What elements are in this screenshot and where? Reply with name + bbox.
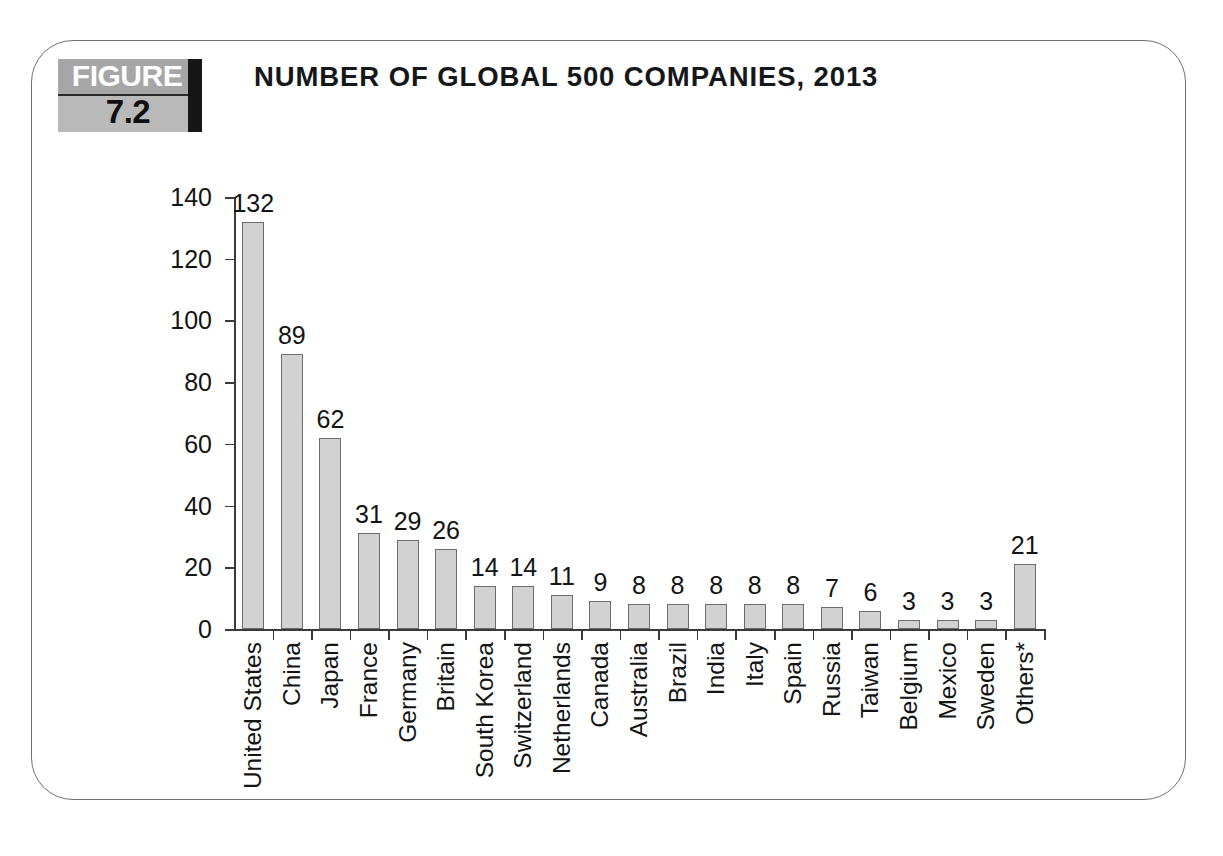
bar-item[interactable]: 14South Korea xyxy=(465,197,504,629)
bar-value-label: 14 xyxy=(471,555,499,580)
x-axis-category-label: Mexico xyxy=(935,642,960,720)
bar-series: 132United States89China62Japan31France29… xyxy=(234,197,1044,629)
x-axis-tick xyxy=(658,630,660,640)
x-axis-tick xyxy=(1005,630,1007,640)
y-axis-tick: 0 xyxy=(225,629,234,631)
bar-value-label: 3 xyxy=(902,589,916,614)
bar-item[interactable]: 3Sweden xyxy=(967,197,1006,629)
bar-item[interactable]: 8Brazil xyxy=(658,197,697,629)
y-axis-tick-label: 80 xyxy=(184,368,212,397)
bar-rect[interactable] xyxy=(319,438,341,629)
bar-rect[interactable] xyxy=(474,586,496,629)
bar-value-label: 6 xyxy=(863,580,877,605)
bar-item[interactable]: 7Russia xyxy=(813,197,852,629)
bar-item[interactable]: 9Canada xyxy=(581,197,620,629)
bar-value-label: 11 xyxy=(549,564,575,589)
y-axis-tick: 20 xyxy=(225,567,234,569)
bar-item[interactable]: 62Japan xyxy=(311,197,350,629)
bar-rect[interactable] xyxy=(397,540,419,629)
x-axis-tick xyxy=(967,630,969,640)
bar-value-label: 8 xyxy=(632,573,646,598)
bar-value-label: 31 xyxy=(355,502,383,527)
y-axis-tick: 120 xyxy=(225,259,234,261)
x-axis-tick xyxy=(928,630,930,640)
bar-item[interactable]: 21Others* xyxy=(1005,197,1044,629)
bar-item[interactable]: 8India xyxy=(697,197,736,629)
bar-chart: 020406080100120140 132United States89Chi… xyxy=(32,41,1187,801)
bar-rect[interactable] xyxy=(358,533,380,629)
bar-item[interactable]: 3Mexico xyxy=(928,197,967,629)
bar-rect[interactable] xyxy=(705,604,727,629)
x-axis-tick xyxy=(427,630,429,640)
y-axis-tick-label: 120 xyxy=(170,244,212,273)
x-axis-category-label: South Korea xyxy=(472,642,497,778)
bar-value-label: 3 xyxy=(979,589,993,614)
x-axis-category-label: Others* xyxy=(1012,642,1037,725)
bar-item[interactable]: 11Netherlands xyxy=(543,197,582,629)
y-axis-tick: 80 xyxy=(225,382,234,384)
x-axis-tick xyxy=(851,630,853,640)
x-axis-category-label: Japan xyxy=(318,642,343,709)
bar-item[interactable]: 8Australia xyxy=(620,197,659,629)
bar-value-label: 14 xyxy=(509,555,537,580)
bar-item[interactable]: 132United States xyxy=(234,197,273,629)
x-axis-category-label: Switzerland xyxy=(511,642,536,769)
bar-rect[interactable] xyxy=(859,611,881,630)
x-axis-tick xyxy=(774,630,776,640)
x-axis-tick xyxy=(504,630,506,640)
x-axis-tick xyxy=(543,630,545,640)
bar-rect[interactable] xyxy=(242,222,264,629)
x-axis-tick xyxy=(273,630,275,640)
bar-rect[interactable] xyxy=(281,354,303,629)
y-axis-tick-label: 100 xyxy=(170,306,212,335)
x-axis-tick xyxy=(1044,630,1046,640)
y-axis-tick: 60 xyxy=(225,444,234,446)
bar-value-label: 8 xyxy=(748,573,762,598)
bar-rect[interactable] xyxy=(937,620,959,629)
bar-value-label: 8 xyxy=(709,573,723,598)
bar-rect[interactable] xyxy=(628,604,650,629)
x-axis-tick xyxy=(311,630,313,640)
bar-rect[interactable] xyxy=(782,604,804,629)
x-axis-category-label: Brazil xyxy=(665,642,690,703)
x-axis-tick xyxy=(581,630,583,640)
bar-rect[interactable] xyxy=(667,604,689,629)
bar-rect[interactable] xyxy=(975,620,997,629)
x-axis-category-label: China xyxy=(280,642,305,706)
x-axis-tick xyxy=(890,630,892,640)
plot-area: 020406080100120140 132United States89Chi… xyxy=(234,197,1044,629)
x-axis-tick xyxy=(697,630,699,640)
bar-item[interactable]: 3Belgium xyxy=(890,197,929,629)
bar-rect[interactable] xyxy=(435,549,457,629)
bar-item[interactable]: 6Taiwan xyxy=(851,197,890,629)
bar-item[interactable]: 29Germany xyxy=(388,197,427,629)
x-axis-category-label: Britain xyxy=(434,642,459,711)
bar-value-label: 9 xyxy=(593,570,607,595)
bar-value-label: 26 xyxy=(432,518,460,543)
bar-item[interactable]: 8Spain xyxy=(774,197,813,629)
x-axis-tick xyxy=(350,630,352,640)
bar-item[interactable]: 26Britain xyxy=(427,197,466,629)
bar-value-label: 132 xyxy=(232,191,274,216)
bar-item[interactable]: 8Italy xyxy=(735,197,774,629)
bar-item[interactable]: 14Switzerland xyxy=(504,197,543,629)
y-axis-tick-label: 40 xyxy=(184,491,212,520)
bar-value-label: 62 xyxy=(317,407,345,432)
x-axis-category-label: Belgium xyxy=(897,642,922,731)
bar-item[interactable]: 89China xyxy=(273,197,312,629)
bar-rect[interactable] xyxy=(744,604,766,629)
x-axis-category-label: United States xyxy=(241,642,266,789)
bar-rect[interactable] xyxy=(512,586,534,629)
bar-rect[interactable] xyxy=(589,601,611,629)
figure-frame: FIGURE 7.2 NUMBER OF GLOBAL 500 COMPANIE… xyxy=(31,40,1186,800)
bar-item[interactable]: 31France xyxy=(350,197,389,629)
x-axis-tick xyxy=(465,630,467,640)
y-axis-tick-label: 60 xyxy=(184,429,212,458)
bar-rect[interactable] xyxy=(1014,564,1036,629)
x-axis-category-label: Taiwan xyxy=(858,642,883,718)
bar-rect[interactable] xyxy=(551,595,573,629)
bar-value-label: 8 xyxy=(671,573,685,598)
bar-rect[interactable] xyxy=(821,607,843,629)
x-axis-tick xyxy=(813,630,815,640)
bar-rect[interactable] xyxy=(898,620,920,629)
